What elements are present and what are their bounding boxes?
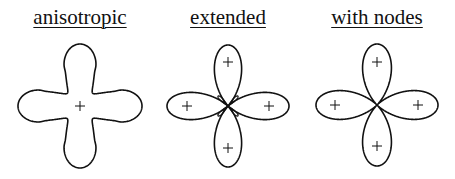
gap-diagrams	[0, 0, 455, 179]
sign-markers	[75, 57, 423, 153]
extended-gap-small-lobes	[218, 96, 238, 116]
